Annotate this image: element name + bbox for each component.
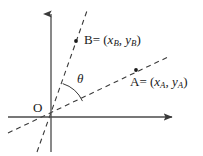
point-b-letter: B: [84, 32, 93, 47]
point-b-dot: [74, 39, 78, 43]
point-a-close-paren: ): [183, 74, 187, 89]
point-b-close-paren: ): [136, 32, 140, 47]
origin-label: O: [33, 101, 42, 114]
point-b-equals: =: [93, 32, 100, 47]
point-a-equals: =: [139, 74, 146, 89]
point-b-comma: ,: [119, 32, 122, 47]
angle-label: θ: [77, 72, 83, 85]
point-a-comma: ,: [166, 74, 169, 89]
point-a-dot: [134, 68, 138, 72]
vector-angle-diagram: B= (xB, yB) A= (xA, yA) O θ: [0, 0, 203, 156]
point-a-letter: A: [130, 74, 139, 89]
angle-arc: [63, 84, 83, 102]
point-a-label: A= (xA, yA): [130, 75, 188, 90]
ray-to-a: [8, 57, 168, 133]
point-b-label: B= (xB, yB): [84, 33, 141, 48]
